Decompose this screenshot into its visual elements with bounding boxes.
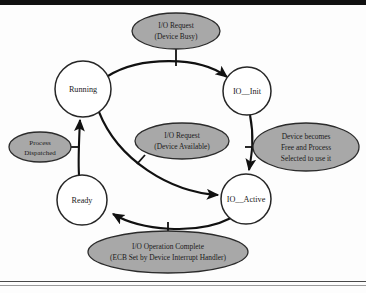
label-io-operation-complete-shape[interactable] <box>88 231 248 273</box>
label-process-dispatched[interactable]: Process Dispatched <box>9 132 71 162</box>
bottom-rule-divider-secondary <box>0 285 366 286</box>
state-io-active[interactable]: IO__Active <box>221 174 271 224</box>
state-diagram-canvas: Running IO__Init Ready IO__Active I/O Re… <box>0 0 366 293</box>
label-io-request-device-available-shape[interactable] <box>135 123 229 159</box>
label-io-request-device-available-line2: (Device Available) <box>154 142 210 151</box>
bottom-rule-divider <box>0 281 366 282</box>
label-io-request-device-busy-line2: (Device Busy) <box>155 32 198 41</box>
state-io-init-label: IO__Init <box>233 87 262 96</box>
state-io-active-label: IO__Active <box>227 195 266 204</box>
label-io-operation-complete-line1: I/O Operation Complete <box>132 242 205 251</box>
state-ready-label: Ready <box>72 196 94 205</box>
label-io-operation-complete-line2: (ECB Set by Device Interrupt Handler) <box>110 253 226 262</box>
label-io-request-device-available[interactable]: I/O Request (Device Available) <box>135 123 229 159</box>
edge-running-to-io-init <box>108 61 227 77</box>
edge-label-ellipses: I/O Request (Device Busy) I/O Request (D… <box>9 13 359 273</box>
label-device-becomes-free[interactable]: Device becomes Free and Process Selected… <box>253 123 359 171</box>
label-device-becomes-free-line2: Free and Process <box>281 143 331 152</box>
diagram-page: Running IO__Init Ready IO__Active I/O Re… <box>0 0 366 293</box>
label-process-dispatched-line2: Dispatched <box>24 149 56 157</box>
label-process-dispatched-shape[interactable] <box>9 132 71 162</box>
label-device-becomes-free-line3: Selected to use it <box>281 154 332 163</box>
edge-io-active-to-ready <box>113 214 231 229</box>
label-process-dispatched-line1: Process <box>29 139 51 147</box>
label-io-request-device-busy-line1: I/O Request <box>158 21 194 30</box>
label-io-request-device-busy[interactable]: I/O Request (Device Busy) <box>132 13 220 49</box>
label-io-request-device-busy-shape[interactable] <box>132 13 220 49</box>
state-io-init[interactable]: IO__Init <box>223 67 271 115</box>
state-running[interactable]: Running <box>55 61 111 117</box>
stub-io-request-device-available <box>137 155 145 164</box>
state-ready[interactable]: Ready <box>57 175 107 225</box>
edge-io-init-to-io-active <box>249 115 252 170</box>
state-running-label: Running <box>69 85 97 94</box>
label-device-becomes-free-line1: Device becomes <box>282 132 331 141</box>
label-io-request-device-available-line1: I/O Request <box>164 131 200 140</box>
label-io-operation-complete[interactable]: I/O Operation Complete (ECB Set by Devic… <box>88 231 248 273</box>
